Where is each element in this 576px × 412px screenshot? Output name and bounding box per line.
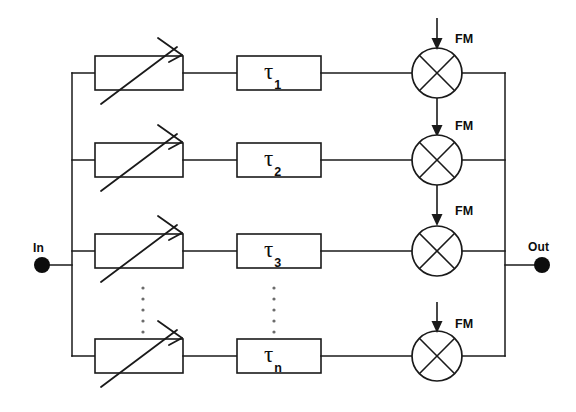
output-node-dot [534,257,550,273]
attenuator-column-ellipsis [141,286,144,333]
branch-row-n [72,302,505,387]
diagram-svg [0,0,576,412]
delay-label-2: τ2 [264,147,280,174]
fm-chain-arrow-2-to-3 [432,185,443,226]
delay-label-n: τn [264,343,281,370]
input-port-label: In [33,242,44,254]
delay-label-3: τ3 [264,238,280,265]
fm-input-arrow-1 [432,18,443,50]
branch-row-1 [72,18,505,104]
fm-label-2: FM [455,120,473,133]
output-port [505,257,550,273]
delay-column-ellipsis [272,286,275,333]
block-diagram-canvas: τ1 τ2 τ3 τn FM FM FM FM In Out [0,0,576,412]
input-node-dot [34,257,50,273]
branch-row-2 [72,125,505,191]
fm-chain-arrow-1-to-2 [432,98,443,137]
fm-label-1: FM [455,33,473,46]
output-port-label: Out [528,241,549,253]
fm-label-n: FM [455,318,473,331]
delay-label-1: τ1 [264,60,280,87]
branch-row-3 [72,216,505,282]
fm-input-arrow-n [432,302,443,333]
input-port [34,257,72,273]
fm-label-3: FM [455,205,473,218]
